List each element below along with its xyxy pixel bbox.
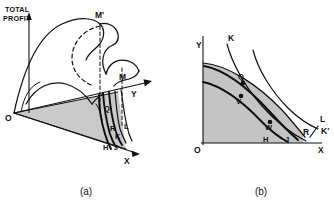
panel-b-caption: (b) (249, 186, 273, 197)
panel-b-label-k-prime: K' (321, 126, 329, 136)
panel-a-point-label-m-prime: M' (95, 10, 104, 20)
figure-svg: TOTAL PROFIT O Y X M' M Q R L K H J (0, 0, 334, 212)
panel-b-label-k: K (228, 33, 235, 43)
panel-a-origin-label: O (5, 113, 12, 123)
panel-b-label-w: W (265, 123, 273, 132)
panel-b-label-l: L (320, 114, 325, 124)
panel-a-point-label-l: L (124, 122, 129, 131)
panel-a-x-axis-label: X (124, 156, 130, 166)
panel-b-x-axis-label: X (318, 145, 324, 155)
figure-container: TOTAL PROFIT O Y X M' M Q R L K H J (0, 0, 334, 212)
panel-b-y-axis-label: Y (196, 40, 202, 50)
panel-a-point-label-m: M (119, 72, 126, 82)
panel-a-group: TOTAL PROFIT O Y X M' M Q R L K H J (3, 5, 152, 166)
panel-a-x-axis-arrow (132, 151, 141, 158)
panel-b-point-q-dot (241, 81, 246, 86)
panel-a-total-label: TOTAL (5, 5, 30, 14)
panel-b-label-r: R (303, 127, 309, 137)
panel-a-surface-peak-crest (86, 24, 104, 60)
panel-b-origin-label: O (194, 145, 201, 155)
panel-b-label-h: H (263, 135, 268, 144)
panel-a-point-label-j: J (114, 143, 118, 152)
panel-b-label-q: Q (238, 72, 244, 81)
panel-a-surface-second-lobe-right (114, 71, 139, 86)
panel-a-y-axis-arrow (144, 79, 153, 86)
panel-a-y-axis-label: Y (131, 89, 137, 99)
panel-a-point-label-q: Q (104, 104, 110, 113)
panel-b-group: Y O X K K' L Q V W R H J (194, 33, 329, 155)
panel-b-label-j: J (285, 135, 289, 144)
panel-a-point-label-h: H (103, 143, 108, 152)
panel-b-label-v: V (236, 97, 241, 106)
panel-a-profit-label: PROFIT (3, 14, 31, 23)
panel-a-hidden-contour-dashed (72, 26, 100, 86)
panel-a-point-label-k: K (115, 132, 121, 141)
panel-a-caption: (a) (74, 186, 98, 197)
